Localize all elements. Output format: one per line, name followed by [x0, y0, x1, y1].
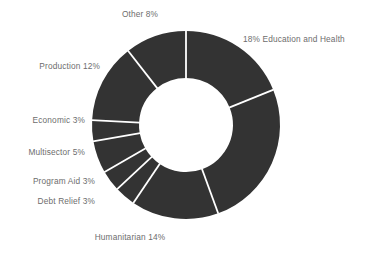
slice-label-production: Production 12% — [0, 61, 100, 72]
slice-label-debt-relief: Debt Relief 3% — [0, 196, 95, 207]
slice-label-other: Other 8% — [80, 9, 200, 20]
donut-chart: Other 8% 18% Education and Health Produc… — [0, 0, 375, 255]
slice-label-education-and-health: 18% Education and Health — [243, 34, 373, 45]
donut-slice — [202, 90, 280, 214]
slice-label-multisector: Multisector 5% — [0, 147, 85, 158]
slice-label-program-aid: Program Aid 3% — [0, 176, 95, 187]
slice-label-economic: Economic 3% — [0, 115, 85, 126]
slice-label-humanitarian: Humanitarian 14% — [60, 232, 200, 243]
